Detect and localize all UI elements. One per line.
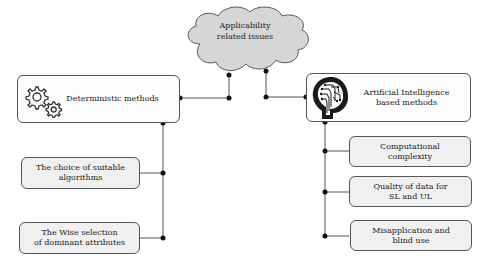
- ai-methods-label: Artificial Intelligence based methods: [364, 88, 450, 108]
- suitable-algorithms-label: The choice of suitable algorithms: [36, 163, 125, 183]
- computational-complexity-label: Computational complexity: [380, 142, 440, 162]
- dominant-attributes-box: The Wise selection of dominant attribute…: [19, 222, 140, 254]
- misapplication-box: Misapplication and blind use: [350, 220, 472, 251]
- data-quality-label: Quality of data for SL and UL: [373, 182, 447, 202]
- cloud-label: Applicability related issues: [200, 20, 290, 42]
- ai-methods-box: Artificial Intelligence based methods: [306, 73, 471, 122]
- deterministic-methods-box: Deterministic methods: [17, 75, 180, 123]
- dominant-attributes-label: The Wise selection of dominant attribute…: [34, 228, 125, 248]
- suitable-algorithms-box: The choice of suitable algorithms: [21, 157, 140, 189]
- deterministic-methods-label: Deterministic methods: [66, 94, 158, 104]
- data-quality-box: Quality of data for SL and UL: [349, 176, 472, 207]
- misapplication-label: Misapplication and blind use: [372, 226, 450, 246]
- computational-complexity-box: Computational complexity: [349, 136, 471, 167]
- gears-icon: [22, 84, 64, 118]
- ai-head-icon: [309, 75, 353, 121]
